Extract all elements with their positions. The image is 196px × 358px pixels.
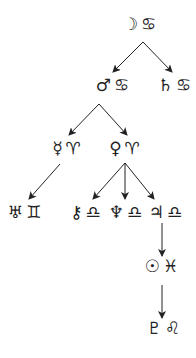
cancer-icon: ♋ — [114, 75, 130, 95]
node-moon-cancer: ☽♋ — [123, 14, 158, 34]
node-chiron-libra: ⚷♎ — [70, 202, 102, 222]
leo-icon: ♌ — [165, 318, 181, 338]
edge-arrow-mars-cancer-to-mercury-aries — [69, 104, 99, 135]
sun-icon: ☉ — [145, 256, 161, 276]
uranus-icon: ♅ — [8, 202, 24, 222]
venus-icon: ♀ — [109, 138, 122, 158]
edge-arrow-moon-cancer-to-saturn-cancer — [143, 42, 172, 72]
edge-arrow-mercury-aries-to-uranus-gemini — [29, 164, 60, 199]
moon-icon: ☽ — [123, 14, 139, 34]
aries-icon: ♈ — [66, 138, 82, 158]
node-jupiter-libra: ♃♎ — [149, 202, 184, 222]
libra-icon: ♎ — [86, 202, 102, 222]
edge-arrow-venus-aries-to-jupiter-libra — [125, 163, 154, 199]
mercury-icon: ☿ — [52, 138, 63, 158]
libra-icon: ♎ — [167, 202, 183, 222]
node-sun-pisces: ☉♓ — [145, 256, 180, 276]
node-uranus-gemini: ♅♊ — [8, 202, 43, 222]
node-neptune-libra: ♆♎ — [109, 202, 144, 222]
gemini-icon: ♊ — [26, 202, 42, 222]
neptune-icon: ♆ — [109, 202, 125, 222]
node-saturn-cancer: ♄♋ — [158, 75, 193, 95]
aries-icon: ♈ — [125, 138, 141, 158]
edge-arrow-mars-cancer-to-venus-aries — [99, 104, 127, 135]
node-pluto-leo: ♇♌ — [147, 318, 182, 338]
edges-layer — [0, 0, 196, 358]
node-mercury-aries: ☿♈ — [52, 138, 82, 158]
cancer-icon: ♋ — [176, 75, 192, 95]
dispositor-tree-diagram: ☽♋ ♂♋ ♄♋ ☿♈ ♀♈ ♅♊ ⚷♎ ♆♎ ♃♎ ☉♓ ♇♌ — [0, 0, 196, 358]
pluto-icon: ♇ — [147, 318, 163, 338]
jupiter-icon: ♃ — [149, 202, 165, 222]
edge-arrow-moon-cancer-to-mars-cancer — [113, 42, 143, 72]
node-venus-aries: ♀♈ — [109, 138, 141, 158]
mars-icon: ♂ — [96, 75, 112, 95]
chiron-icon: ⚷ — [70, 202, 83, 222]
pisces-icon: ♓ — [163, 256, 179, 276]
libra-icon: ♎ — [127, 202, 143, 222]
node-mars-cancer: ♂♋ — [96, 75, 131, 95]
cancer-icon: ♋ — [141, 14, 157, 34]
edge-arrow-venus-aries-to-chiron-libra — [93, 163, 125, 199]
saturn-icon: ♄ — [158, 75, 174, 95]
